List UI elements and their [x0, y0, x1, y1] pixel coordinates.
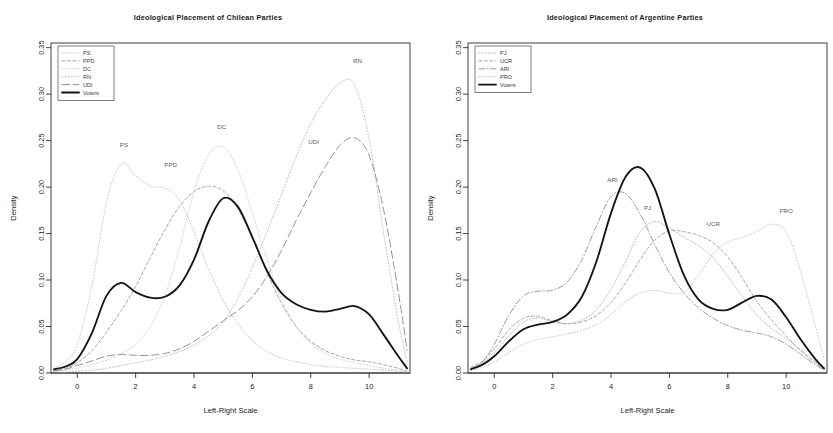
legend-label-pj: PJ — [500, 50, 507, 56]
y-tick-label: 0.25 — [454, 133, 463, 147]
density-curve-pro — [471, 224, 824, 370]
legend-label-pro: PRO — [500, 74, 513, 80]
y-tick-label: 0.15 — [454, 226, 463, 240]
y-tick-label: 0.35 — [37, 40, 46, 54]
x-tick-label: 6 — [667, 382, 671, 391]
chart-panel-argentina: Ideological Placement of Argentine Parti… — [417, 0, 833, 433]
y-tick-label: 0.05 — [37, 319, 46, 333]
legend-label-rn: RN — [83, 74, 91, 80]
density-curve-voters — [54, 198, 407, 370]
y-tick-label: 0.30 — [37, 87, 46, 101]
density-curve-ppd — [54, 186, 407, 371]
curve-label-ari: ARI — [607, 176, 618, 183]
density-curve-ari — [471, 192, 824, 370]
density-curve-voters — [471, 167, 824, 369]
x-tick-label: 8 — [726, 382, 730, 391]
y-tick-label: 0.25 — [37, 133, 46, 147]
y-axis-title: Density — [426, 195, 435, 221]
curve-label-pj: PJ — [644, 204, 651, 211]
chart-svg-argentina: 02468100.000.050.100.150.200.250.300.35L… — [417, 0, 833, 433]
y-tick-label: 0.05 — [454, 319, 463, 333]
chart-panel-chile: Ideological Placement of Chilean Parties… — [0, 0, 416, 433]
x-tick-label: 8 — [309, 382, 313, 391]
legend-label-voters: Voters — [500, 82, 516, 88]
legend-label-dc: DC — [83, 66, 91, 72]
curve-label-udi: UDI — [308, 138, 319, 145]
x-tick-label: 10 — [782, 382, 790, 391]
density-curve-dc — [54, 146, 407, 372]
x-tick-label: 0 — [75, 382, 79, 391]
legend-label-udi: UDI — [83, 82, 93, 88]
density-curve-ps — [54, 163, 407, 372]
y-tick-label: 0.10 — [454, 273, 463, 287]
y-tick-label: 0.20 — [454, 180, 463, 194]
density-curve-rn — [54, 79, 407, 372]
x-axis-title: Left-Right Scale — [203, 406, 257, 415]
x-tick-label: 4 — [192, 382, 196, 391]
legend-label-voters: Voters — [83, 90, 99, 96]
y-tick-label: 0.35 — [454, 40, 463, 54]
y-axis-title: Density — [9, 195, 18, 221]
y-tick-label: 0.30 — [454, 87, 463, 101]
chart-svg-chile: 02468100.000.050.100.150.200.250.300.35L… — [0, 0, 416, 433]
legend-label-ps: PS — [83, 50, 91, 56]
y-tick-label: 0.00 — [37, 366, 46, 380]
legend-label-ari: ARI — [500, 66, 510, 72]
curve-label-ps: PS — [120, 141, 128, 148]
curve-label-ucr: UCR — [706, 220, 720, 227]
figure-canvas: Ideological Placement of Chilean Parties… — [0, 0, 833, 433]
x-axis-title: Left-Right Scale — [620, 406, 674, 415]
curve-label-rn: RN — [353, 57, 362, 64]
curve-label-dc: DC — [217, 123, 226, 130]
x-tick-label: 2 — [134, 382, 138, 391]
y-tick-label: 0.15 — [37, 226, 46, 240]
curve-label-pro: PRO — [779, 207, 793, 214]
x-tick-label: 10 — [365, 382, 373, 391]
x-tick-label: 6 — [250, 382, 254, 391]
curve-label-ppd: PPD — [164, 161, 177, 168]
y-tick-label: 0.10 — [37, 273, 46, 287]
x-tick-label: 4 — [609, 382, 613, 391]
density-curve-udi — [54, 137, 407, 371]
legend-label-ucr: UCR — [500, 58, 512, 64]
y-tick-label: 0.00 — [454, 366, 463, 380]
x-tick-label: 2 — [551, 382, 555, 391]
legend-label-ppd: PPD — [83, 58, 95, 64]
y-tick-label: 0.20 — [37, 180, 46, 194]
x-tick-label: 0 — [492, 382, 496, 391]
